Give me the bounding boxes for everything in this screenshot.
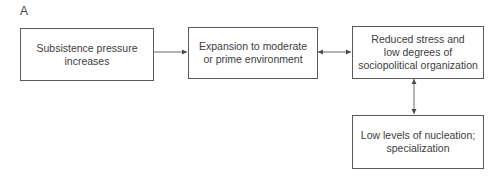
node-reduced-stress: Reduced stress and low degrees of sociop…: [352, 26, 484, 79]
node-subsistence-pressure: Subsistence pressure increases: [20, 28, 154, 81]
node-text: Low levels of nucleation; specialization: [361, 129, 475, 155]
node-text: Reduced stress and low degrees of sociop…: [358, 33, 478, 72]
node-text: Expansion to moderate or prime environme…: [199, 40, 307, 66]
node-low-nucleation: Low levels of nucleation; specialization: [352, 115, 484, 169]
node-expansion: Expansion to moderate or prime environme…: [188, 27, 318, 79]
node-text: Subsistence pressure increases: [37, 42, 138, 68]
